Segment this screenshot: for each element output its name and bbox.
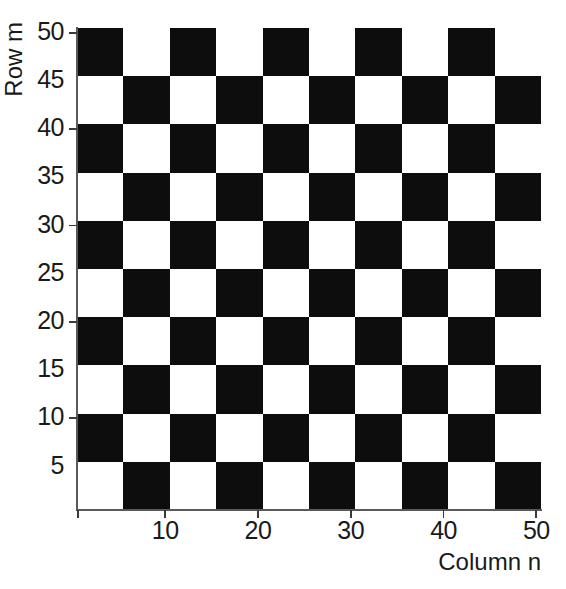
y-tick-label: 35 xyxy=(37,161,64,190)
checker-cell xyxy=(355,365,401,413)
checker-cell xyxy=(495,76,541,124)
checker-cell xyxy=(448,173,494,221)
checker-cell xyxy=(216,462,262,510)
x-axis-spine xyxy=(76,509,542,511)
checker-cell xyxy=(216,28,262,76)
checker-cell xyxy=(216,414,262,462)
checker-cell xyxy=(77,414,123,462)
checker-cell xyxy=(77,173,123,221)
checker-cell xyxy=(170,124,216,172)
y-tick-label: 30 xyxy=(37,210,64,239)
checker-cell xyxy=(355,221,401,269)
checker-cell xyxy=(263,414,309,462)
checker-cell xyxy=(170,414,216,462)
checker-cell xyxy=(402,221,448,269)
checker-cell xyxy=(448,317,494,365)
checker-cell xyxy=(123,173,169,221)
x-tick-label: 10 xyxy=(125,516,205,545)
y-tick-label: 40 xyxy=(37,113,64,142)
checker-cell xyxy=(355,269,401,317)
x-tick-label: 30 xyxy=(311,516,391,545)
y-tick-mark xyxy=(69,32,77,34)
y-tick-mark xyxy=(69,225,77,227)
checker-cell xyxy=(216,124,262,172)
checker-cell xyxy=(495,28,541,76)
y-axis-spine xyxy=(76,27,78,511)
checker-cell xyxy=(77,462,123,510)
checker-cell xyxy=(355,173,401,221)
checker-cell xyxy=(123,317,169,365)
y-tick-label: 15 xyxy=(37,354,64,383)
y-tick-label: 5 xyxy=(51,451,64,480)
checker-cell xyxy=(263,124,309,172)
checker-cell xyxy=(123,28,169,76)
checker-cell xyxy=(216,365,262,413)
checker-cell xyxy=(402,28,448,76)
checker-cell xyxy=(495,365,541,413)
checker-cell xyxy=(448,414,494,462)
checker-cell xyxy=(170,462,216,510)
checker-cell xyxy=(309,365,355,413)
checker-cell xyxy=(495,317,541,365)
checker-cell xyxy=(402,124,448,172)
x-tick-label: 50 xyxy=(496,516,566,545)
checker-cell xyxy=(309,221,355,269)
checker-cell xyxy=(263,221,309,269)
x-tick-label: 40 xyxy=(404,516,484,545)
checker-cell xyxy=(123,365,169,413)
checker-cell xyxy=(77,317,123,365)
checker-cell xyxy=(495,221,541,269)
x-origin-tick-mark xyxy=(77,510,79,518)
checker-cell xyxy=(355,317,401,365)
checker-cell xyxy=(123,462,169,510)
checker-cell xyxy=(495,173,541,221)
checker-cell xyxy=(402,269,448,317)
checker-cell xyxy=(170,173,216,221)
checker-cell xyxy=(495,462,541,510)
checker-cell xyxy=(448,124,494,172)
checker-cell xyxy=(495,124,541,172)
checker-cell xyxy=(402,317,448,365)
checker-cell xyxy=(170,28,216,76)
checker-cell xyxy=(263,317,309,365)
y-axis-title: Row m xyxy=(0,22,28,97)
checker-cell xyxy=(263,76,309,124)
checker-cell xyxy=(170,221,216,269)
y-tick-label: 45 xyxy=(37,65,64,94)
checker-cell xyxy=(448,365,494,413)
checker-cell xyxy=(170,317,216,365)
checker-cell xyxy=(170,269,216,317)
checkerboard-figure: 5101520253035404550 1020304050 Row m Col… xyxy=(0,0,566,589)
checker-cell xyxy=(402,414,448,462)
checker-cell xyxy=(77,269,123,317)
y-tick-mark xyxy=(69,321,77,323)
y-tick-label: 25 xyxy=(37,258,64,287)
checker-cell xyxy=(402,76,448,124)
checker-cell xyxy=(170,76,216,124)
x-axis-title: Column n xyxy=(438,548,541,576)
checker-cell xyxy=(309,28,355,76)
checker-cell xyxy=(309,76,355,124)
checker-cell xyxy=(123,269,169,317)
checker-cell xyxy=(263,173,309,221)
checker-cell xyxy=(77,28,123,76)
checker-cell xyxy=(309,317,355,365)
checker-cell xyxy=(309,269,355,317)
checkerboard-image xyxy=(77,28,541,510)
checker-cell xyxy=(402,462,448,510)
checker-cell xyxy=(309,414,355,462)
checker-cell xyxy=(495,414,541,462)
y-tick-mark xyxy=(69,128,77,130)
checker-cell xyxy=(123,414,169,462)
checker-cell xyxy=(355,414,401,462)
checker-cell xyxy=(216,317,262,365)
checker-cell xyxy=(263,462,309,510)
checker-cell xyxy=(123,124,169,172)
checker-cell xyxy=(402,365,448,413)
checker-cell xyxy=(216,221,262,269)
checker-cell xyxy=(448,462,494,510)
checker-cell xyxy=(309,173,355,221)
checker-cell xyxy=(355,124,401,172)
checker-cell xyxy=(355,76,401,124)
y-tick-mark xyxy=(69,417,77,419)
